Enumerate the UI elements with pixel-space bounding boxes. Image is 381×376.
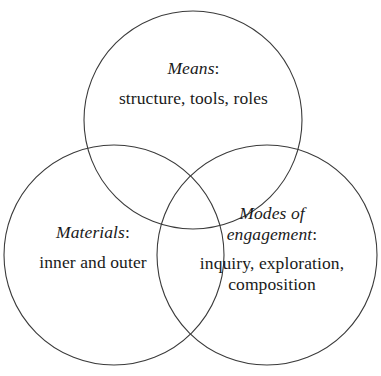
label-group-means: Means: structure, tools, roles bbox=[96, 58, 291, 108]
set-heading-colon-modes-of-engagement: : bbox=[312, 224, 317, 244]
set-items-materials: inner and outer bbox=[17, 252, 169, 273]
set-heading-colon-materials: : bbox=[125, 222, 130, 242]
circle-means bbox=[84, 11, 302, 229]
label-group-modes-of-engagement: Modes of engagement: inquiry, exploratio… bbox=[196, 203, 348, 295]
set-heading-materials: Materials: bbox=[17, 222, 169, 243]
set-heading-colon-means: : bbox=[215, 58, 220, 78]
venn-diagram: Means: structure, tools, roles Materials… bbox=[0, 0, 381, 376]
set-heading-means: Means: bbox=[96, 58, 291, 79]
set-items-modes-of-engagement: inquiry, exploration, composition bbox=[196, 253, 348, 294]
set-heading-modes-of-engagement: Modes of engagement: bbox=[196, 203, 348, 244]
label-group-materials: Materials: inner and outer bbox=[17, 222, 169, 272]
set-items-means: structure, tools, roles bbox=[96, 88, 291, 109]
venn-circles-group bbox=[0, 0, 381, 376]
